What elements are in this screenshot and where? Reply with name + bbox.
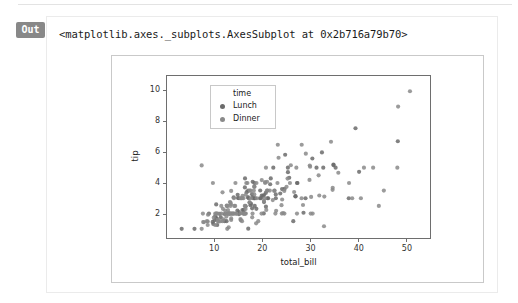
y-tick-label: 2 xyxy=(134,209,160,218)
x-tick-mark xyxy=(214,239,215,242)
y-tick-label: 8 xyxy=(134,116,160,125)
cell-divider xyxy=(18,4,512,5)
y-tick-mark xyxy=(163,214,166,215)
y-tick-mark xyxy=(163,183,166,184)
x-tick-label: 10 xyxy=(201,244,227,253)
legend-marker-dinner xyxy=(220,117,225,122)
notebook-output-cell: Out <matplotlib.axes._subplots.AxesSubpl… xyxy=(0,0,518,303)
plot-legend: time Lunch Dinner xyxy=(210,85,276,129)
x-tick-mark xyxy=(262,239,263,242)
y-tick-mark xyxy=(163,152,166,153)
y-tick-label: 10 xyxy=(134,85,160,94)
x-tick-label: 20 xyxy=(249,244,275,253)
legend-label-lunch: Lunch xyxy=(233,101,257,110)
y-tick-mark xyxy=(163,90,166,91)
legend-label-dinner: Dinner xyxy=(233,114,260,123)
matplotlib-figure: 2468101020304050 total_bill tip time Lun… xyxy=(111,55,484,283)
y-tick-mark xyxy=(163,121,166,122)
x-tick-label: 50 xyxy=(394,244,420,253)
x-tick-mark xyxy=(310,239,311,242)
plot-axes xyxy=(166,75,431,239)
x-tick-mark xyxy=(358,239,359,242)
x-axis-label: total_bill xyxy=(269,257,329,267)
y-axis-label: tip xyxy=(130,132,140,180)
legend-entry-dinner: Dinner xyxy=(211,113,277,126)
legend-title: time xyxy=(233,89,251,98)
x-tick-mark xyxy=(406,239,407,242)
object-repr-text: <matplotlib.axes._subplots.AxesSubplot a… xyxy=(59,28,407,40)
output-prompt-badge: Out xyxy=(16,22,45,38)
scatter-points-layer xyxy=(167,76,430,238)
x-tick-label: 30 xyxy=(298,244,324,253)
x-tick-label: 40 xyxy=(346,244,372,253)
output-card: <matplotlib.axes._subplots.AxesSubplot a… xyxy=(46,16,498,293)
legend-marker-lunch xyxy=(220,104,225,109)
legend-entry-lunch: Lunch xyxy=(211,100,277,113)
